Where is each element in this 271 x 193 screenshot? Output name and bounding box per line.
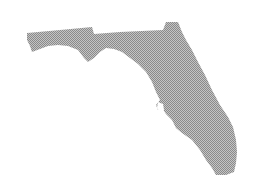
florida-shape — [27, 22, 237, 175]
florida-silhouette — [0, 0, 271, 193]
florida-map: Florida state silhouette — [0, 0, 271, 193]
